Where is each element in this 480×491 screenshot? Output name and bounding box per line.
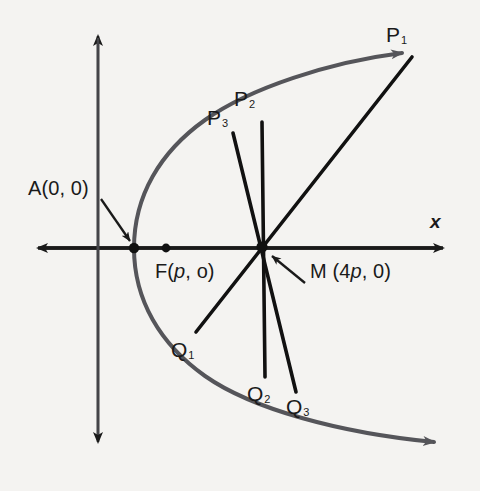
vertex-A-dot: [129, 243, 139, 253]
vertex-label-A: A(0, 0): [28, 178, 89, 198]
x-axis-label: x: [430, 212, 441, 231]
point-label-Q3: Q3: [286, 396, 309, 417]
point-label-P2: P2: [234, 88, 255, 109]
point-label-Q1-sub: 1: [187, 349, 194, 361]
point-label-P1-letter: P: [386, 23, 400, 46]
parabola-diagram: x A(0, 0) F(p, o) M (4p, 0) P1 P2 P3 Q1 …: [0, 0, 480, 491]
point-label-Q3-sub: 3: [302, 406, 309, 418]
point-label-P3: P3: [207, 107, 228, 128]
m-label-suffix: , 0): [362, 260, 391, 282]
focus-label-suffix: , o): [185, 260, 214, 282]
point-label-P2-sub: 2: [248, 98, 255, 110]
leader-arrow-A: [101, 199, 130, 241]
chord-P1-Q1: [196, 57, 412, 332]
leader-arrow-M: [272, 256, 305, 283]
point-label-P1: P1: [386, 24, 407, 45]
focus-label-prefix: F(: [155, 260, 174, 282]
point-M-dot: [256, 241, 267, 252]
point-label-Q1: Q1: [171, 339, 194, 360]
point-label-Q2-letter: Q: [247, 382, 263, 405]
point-label-P3-letter: P: [207, 106, 221, 129]
point-label-Q2: Q2: [247, 383, 270, 404]
m-label-var: p: [350, 260, 361, 282]
focus-F-dot: [162, 244, 171, 253]
point-label-Q2-sub: 2: [263, 393, 270, 405]
point-label-P1-sub: 1: [400, 34, 407, 46]
point-label-M: M (4p, 0): [310, 261, 391, 281]
point-label-P2-letter: P: [234, 87, 248, 110]
focus-label-F: F(p, o): [155, 261, 215, 281]
point-label-Q3-letter: Q: [286, 395, 302, 418]
parabola-curve-upper: [134, 53, 402, 248]
diagram-canvas: [0, 0, 480, 491]
focus-label-var: p: [174, 260, 185, 282]
point-label-P3-sub: 3: [221, 117, 228, 129]
m-label-prefix: M (4: [310, 260, 350, 282]
point-label-Q1-letter: Q: [171, 338, 187, 361]
